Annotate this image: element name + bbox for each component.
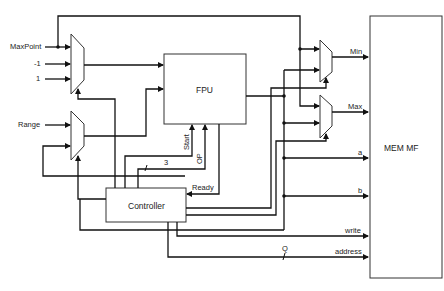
datapath-diagram: MaxPoint -1 1 Range FPU Controller MEM M… bbox=[0, 0, 444, 291]
output-label-write: write bbox=[345, 227, 361, 235]
signal-label-ready: Ready bbox=[192, 184, 214, 192]
output-label-min: Min bbox=[350, 48, 362, 56]
output-label-max: Max bbox=[348, 103, 362, 111]
input-label-one: 1 bbox=[36, 75, 40, 83]
output-label-address: address bbox=[335, 248, 362, 256]
min-mux bbox=[320, 40, 332, 82]
output-label-a: a bbox=[358, 149, 362, 157]
signal-label-q: Q bbox=[282, 245, 288, 253]
signal-label-start: Start bbox=[183, 134, 191, 150]
input-label-maxpoint: MaxPoint bbox=[10, 43, 41, 51]
input-label-minus-one: -1 bbox=[34, 60, 41, 68]
signal-label-op-width: 3 bbox=[164, 159, 168, 167]
input-label-range: Range bbox=[18, 121, 40, 129]
max-mux bbox=[320, 95, 332, 138]
fpu-label: FPU bbox=[196, 86, 213, 95]
output-label-b: b bbox=[358, 187, 362, 195]
controller-label: Controller bbox=[128, 202, 165, 211]
input-mux-2 bbox=[71, 111, 84, 160]
input-mux-1 bbox=[71, 34, 84, 94]
wiring bbox=[0, 0, 444, 291]
mem-label: MEM MF bbox=[384, 144, 418, 153]
signal-label-op: OP bbox=[196, 153, 204, 164]
